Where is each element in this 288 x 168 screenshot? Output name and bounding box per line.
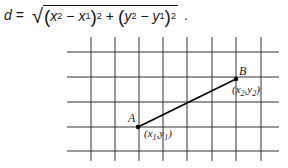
point-a — [136, 125, 140, 129]
point-b — [234, 77, 238, 81]
point-a-coords: (x1,y1) — [144, 127, 172, 142]
point-a-label: A — [127, 111, 136, 125]
grid-lines — [67, 37, 279, 161]
point-b-label: B — [239, 64, 247, 78]
coordinate-grid-diagram: A (x1,y1) B (x2,y2) — [0, 0, 288, 168]
